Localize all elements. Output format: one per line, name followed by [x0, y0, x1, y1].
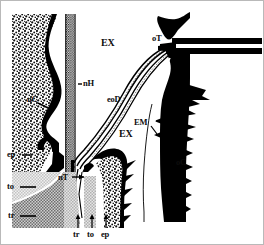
left-tissue-mass	[12, 14, 64, 172]
oC-left-serration-2	[154, 132, 161, 138]
label-EX-upper: EX	[101, 38, 115, 48]
figure-drawing	[0, 0, 264, 245]
label-tr-bottom: tr	[73, 230, 79, 239]
to-column-centre	[84, 176, 96, 228]
nH-tube-hatch	[66, 14, 75, 180]
oC-serration-1	[186, 124, 196, 130]
label-EX-lower: EX	[119, 129, 133, 139]
oC-serration-5	[186, 178, 192, 184]
label-nT: nT	[58, 173, 68, 182]
oC-spine-mid2	[184, 108, 196, 116]
label-to-bottom: to	[87, 230, 94, 239]
oC-serration-7	[186, 206, 191, 212]
nH-tube-wall-left	[65, 14, 66, 180]
label-oC: oC	[176, 158, 186, 167]
label-ep-left: ep	[7, 150, 15, 159]
anatomical-figure: nC nH EX eoD EX EM oT oC ep to tr tr to …	[0, 0, 264, 245]
oC-serration-3	[186, 150, 193, 156]
oT-bar-upper	[172, 38, 262, 44]
nH-tube-wall-right	[75, 14, 76, 180]
label-eoD: eoD	[107, 95, 121, 104]
label-oT: oT	[152, 34, 162, 43]
oC-serration-6	[186, 192, 192, 198]
oC-serration-4	[186, 164, 193, 170]
ep-spine-2	[125, 174, 134, 182]
oC-serration-2	[186, 136, 194, 142]
label-nC: nC	[27, 95, 37, 104]
ep-spine-5	[124, 215, 131, 222]
ep-spine-1	[126, 160, 136, 170]
oT-bar-lower	[166, 48, 262, 54]
ep-stipple	[96, 156, 122, 228]
oC-spine-large	[186, 84, 210, 100]
label-tr-left: tr	[8, 211, 14, 220]
oC-body	[160, 52, 190, 222]
label-EM: EM	[134, 118, 147, 127]
label-to-left: to	[7, 182, 14, 191]
ep-spine-4	[124, 203, 132, 210]
label-ep-bottom: ep	[101, 230, 109, 239]
label-nH: nH	[83, 79, 94, 88]
outer-tube-assembly	[157, 12, 262, 54]
oT-hook	[157, 12, 190, 40]
ep-spine-3	[124, 188, 133, 196]
eoD-duct-4	[83, 54, 170, 172]
eoD-duct-2	[77, 50, 166, 166]
lower-left-layers	[12, 171, 80, 228]
ep-left-hook	[84, 163, 94, 172]
